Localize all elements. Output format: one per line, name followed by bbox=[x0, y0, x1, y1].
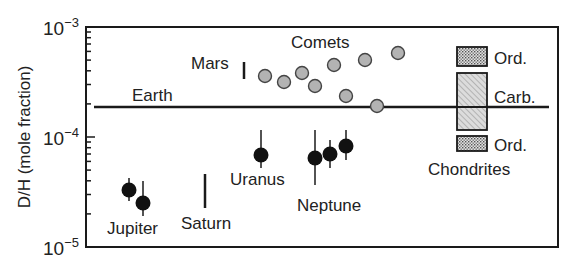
saturn-label: Saturn bbox=[181, 214, 231, 233]
dh-ratio-chart: 10−3 10−4 10−5 D/H (mole fraction) Earth… bbox=[0, 0, 587, 268]
y-axis-ticks bbox=[86, 27, 95, 247]
ord-upper-label: Ord. bbox=[494, 49, 527, 68]
uranus-label: Uranus bbox=[230, 170, 285, 189]
chondrite-carb-box bbox=[457, 73, 487, 130]
carb-label: Carb. bbox=[494, 88, 536, 107]
ord-lower-label: Ord. bbox=[494, 136, 527, 155]
chondrites-label: Chondrites bbox=[428, 160, 510, 179]
y-axis-title: D/H (mole fraction) bbox=[15, 66, 34, 209]
neptune-points bbox=[308, 130, 354, 185]
y-tick-label-1e-5: 10−5 bbox=[43, 235, 79, 259]
jupiter-points bbox=[122, 178, 151, 216]
uranus-point bbox=[254, 130, 269, 168]
neptune-label: Neptune bbox=[297, 196, 361, 215]
chondrite-ord-lower-box bbox=[457, 136, 487, 151]
comets-label: Comets bbox=[291, 33, 350, 52]
chondrite-ord-upper-box bbox=[457, 47, 487, 66]
comet-points bbox=[259, 47, 405, 113]
earth-label: Earth bbox=[132, 86, 173, 105]
y-tick-label-1e-3: 10−3 bbox=[43, 15, 79, 39]
jupiter-label: Jupiter bbox=[107, 219, 158, 238]
y-tick-label-1e-4: 10−4 bbox=[43, 125, 79, 149]
mars-label: Mars bbox=[191, 54, 229, 73]
